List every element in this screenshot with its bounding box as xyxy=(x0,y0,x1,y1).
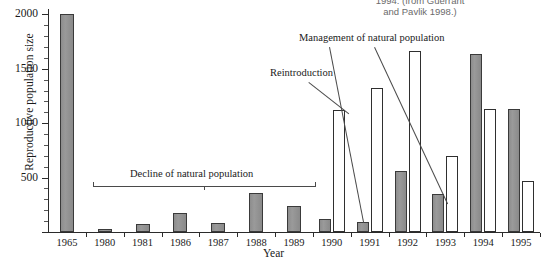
bar-1994-reintroduced xyxy=(484,109,496,232)
bar-1995-reintroduced xyxy=(522,181,534,232)
x-tick-label-1994: 1994 xyxy=(473,237,494,248)
y-tick-label-1500: 1500 xyxy=(0,62,38,74)
bar-1965-natural xyxy=(60,14,74,232)
x-axis-label: Year xyxy=(0,247,547,259)
bar-1993-reintroduced xyxy=(446,156,458,232)
y-tick-label-1000: 1000 xyxy=(0,116,38,128)
bar-1986-natural xyxy=(173,213,187,232)
y-axis-label: Reproductive population size xyxy=(23,17,35,187)
bar-1993-natural xyxy=(432,194,444,232)
bar-1990-reintroduced xyxy=(333,110,345,232)
figure-caption: 1994. (from Guerrant and Pavlik 1998.) xyxy=(335,0,505,17)
reintroduction-leader-line xyxy=(308,82,349,114)
bar-1992-natural xyxy=(395,171,407,232)
y-minor-tick xyxy=(44,80,48,81)
x-tick xyxy=(464,233,465,237)
bar-1988-natural xyxy=(249,193,263,232)
y-minor-tick xyxy=(44,156,48,157)
x-tick-label-1991: 1991 xyxy=(359,237,380,248)
bar-1994-natural xyxy=(470,54,482,232)
y-tick-1500 xyxy=(42,69,48,70)
y-minor-tick xyxy=(44,112,48,113)
annotation-reintroduction-label: Reintroduction xyxy=(270,67,333,78)
x-tick xyxy=(313,233,314,237)
x-tick xyxy=(275,233,276,237)
y-tick-1000 xyxy=(42,123,48,124)
bar-1980-natural xyxy=(98,229,112,232)
x-tick xyxy=(426,233,427,237)
x-tick xyxy=(86,233,87,237)
decline-bracket-mid xyxy=(204,186,205,190)
y-tick-label-500: 500 xyxy=(0,171,38,183)
bar-1990-natural xyxy=(319,219,331,232)
x-tick xyxy=(199,233,200,237)
x-tick xyxy=(540,233,541,237)
x-tick-label-1965: 1965 xyxy=(56,237,77,248)
y-tick-label-2000: 2000 xyxy=(0,7,38,19)
y-minor-tick xyxy=(44,221,48,222)
x-tick-label-1981: 1981 xyxy=(132,237,153,248)
x-tick-label-1995: 1995 xyxy=(511,237,532,248)
y-minor-tick xyxy=(44,47,48,48)
x-tick-label-1986: 1986 xyxy=(170,237,191,248)
y-minor-tick xyxy=(44,134,48,135)
x-tick xyxy=(351,233,352,237)
bar-1991-reintroduced xyxy=(371,88,383,232)
bar-1981-natural xyxy=(136,224,150,232)
y-minor-tick xyxy=(44,199,48,200)
y-tick-500 xyxy=(42,178,48,179)
y-tick-0 xyxy=(42,232,48,233)
bar-1995-natural xyxy=(508,109,520,232)
x-tick-label-1989: 1989 xyxy=(284,237,305,248)
decline-bracket-end-left xyxy=(93,182,94,187)
y-minor-tick xyxy=(44,36,48,37)
y-tick-2000 xyxy=(42,14,48,15)
x-tick xyxy=(389,233,390,237)
x-tick-label-1988: 1988 xyxy=(246,237,267,248)
x-tick-label-1990: 1990 xyxy=(321,237,342,248)
y-minor-tick xyxy=(44,101,48,102)
figure-chart: 1994. (from Guerrant and Pavlik 1998.) R… xyxy=(0,0,547,263)
y-minor-tick xyxy=(44,167,48,168)
x-tick xyxy=(162,233,163,237)
y-minor-tick xyxy=(44,58,48,59)
x-tick xyxy=(124,233,125,237)
annotation-management-label: Management of natural population xyxy=(299,32,445,43)
y-minor-tick xyxy=(44,210,48,211)
x-tick-label-1992: 1992 xyxy=(397,237,418,248)
x-tick-label-1980: 1980 xyxy=(94,237,115,248)
y-minor-tick xyxy=(44,25,48,26)
y-minor-tick xyxy=(44,188,48,189)
y-minor-tick xyxy=(44,91,48,92)
y-axis-line xyxy=(48,9,49,233)
x-tick-label-1993: 1993 xyxy=(435,237,456,248)
x-tick xyxy=(237,233,238,237)
bar-1989-natural xyxy=(287,206,301,232)
bar-1991-natural xyxy=(357,222,369,232)
y-minor-tick xyxy=(44,145,48,146)
bar-1987-natural xyxy=(211,223,225,232)
x-axis-line xyxy=(48,232,540,233)
x-tick-label-1987: 1987 xyxy=(208,237,229,248)
x-tick xyxy=(502,233,503,237)
decline-bracket-end-right xyxy=(315,182,316,187)
annotation-decline-label: Decline of natural population xyxy=(130,168,253,179)
